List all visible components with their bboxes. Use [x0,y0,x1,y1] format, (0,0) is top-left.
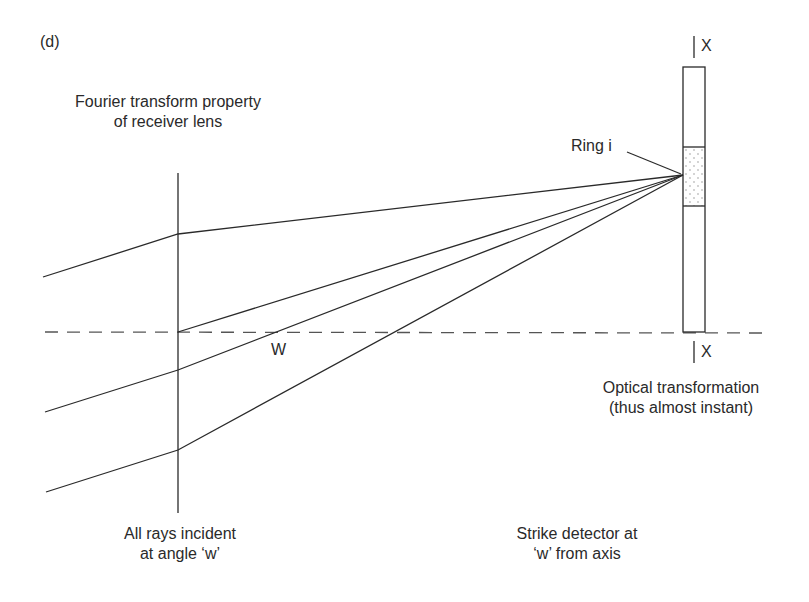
optics-diagram [0,0,809,602]
lens-title-line1: Fourier transform property [48,92,288,112]
ray-4 [46,175,683,492]
optical-line1: Optical transformation [566,378,796,398]
axis-point-label: W [271,340,286,360]
optical-line2: (thus almost instant) [566,398,796,418]
lens-title-line2: of receiver lens [48,112,288,132]
ray-3 [45,175,683,412]
panel-label: (d) [40,32,60,52]
optical-transformation-label: Optical transformation (thus almost inst… [566,378,796,418]
rays-line2: at angle ‘w’ [95,544,265,564]
detector-ring-i [683,147,705,206]
lens-title: Fourier transform property of receiver l… [48,92,288,132]
strike-detector-label: Strike detector at ‘w’ from axis [497,524,657,564]
strike-line2: ‘w’ from axis [497,544,657,564]
optical-axis [45,332,764,333]
ring-leader [627,152,681,174]
strike-line1: Strike detector at [497,524,657,544]
rays-incident-label: All rays incident at angle ‘w’ [95,524,265,564]
ray-1 [43,175,683,277]
section-label-top: X [701,36,712,56]
section-label-bottom: X [701,342,712,362]
rays-line1: All rays incident [95,524,265,544]
ray-2 [178,175,683,332]
ring-label: Ring i [571,136,612,156]
